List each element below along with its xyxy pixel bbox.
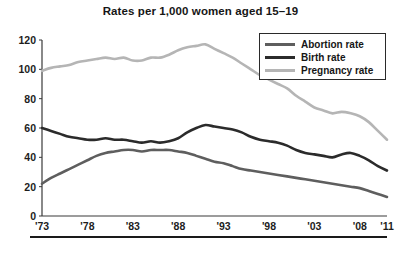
x-axis-tick-label: '78 xyxy=(80,220,94,232)
legend-label-abortion-rate: Abortion rate xyxy=(301,39,364,51)
y-axis-tick-label: 40 xyxy=(24,151,36,163)
x-axis-tick-label: '11 xyxy=(380,220,394,232)
legend-swatch-pregnancy-rate xyxy=(265,69,295,72)
y-axis-tick-label: 120 xyxy=(18,34,36,46)
x-axis-tick-label: '83 xyxy=(126,220,140,232)
legend-item-pregnancy-rate: Pregnancy rate xyxy=(265,64,380,77)
x-axis-tick-label: '03 xyxy=(307,220,321,232)
x-axis-tick-label: '88 xyxy=(171,220,185,232)
series-line-birth-rate xyxy=(42,125,387,170)
legend-swatch-birth-rate xyxy=(265,56,295,59)
y-axis-tick-label: 20 xyxy=(24,181,36,193)
x-axis-tick-label: '73 xyxy=(35,220,49,232)
y-axis-tick-label: 100 xyxy=(18,63,36,75)
y-axis: 020406080100120 xyxy=(18,34,42,222)
chart-legend: Abortion rate Birth rate Pregnancy rate xyxy=(259,33,386,80)
x-axis-tick-label: '98 xyxy=(262,220,276,232)
legend-label-birth-rate: Birth rate xyxy=(301,52,345,64)
legend-label-pregnancy-rate: Pregnancy rate xyxy=(301,65,373,77)
legend-item-abortion-rate: Abortion rate xyxy=(265,38,380,51)
legend-swatch-abortion-rate xyxy=(265,43,295,46)
y-axis-tick-label: 60 xyxy=(24,122,36,134)
x-axis-tick-label: '08 xyxy=(353,220,367,232)
bottom-divider xyxy=(30,236,387,238)
x-axis-tick-label: '93 xyxy=(216,220,230,232)
y-axis-tick-label: 80 xyxy=(24,93,36,105)
chart-container: Rates per 1,000 women aged 15–19 0204060… xyxy=(0,0,401,254)
legend-item-birth-rate: Birth rate xyxy=(265,51,380,64)
x-axis: '73'78'83'88'93'98'03'08'11 xyxy=(35,216,394,232)
